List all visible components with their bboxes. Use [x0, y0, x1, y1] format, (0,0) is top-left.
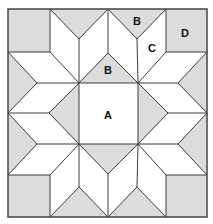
label-a: A [104, 109, 112, 121]
edge-triangle-bottom [50, 187, 108, 217]
corner-square-top-left [8, 9, 50, 52]
label-b-center: B [104, 64, 112, 76]
quilt-block-diagram: A B B C D [0, 0, 213, 224]
corner-square-bottom-left [8, 175, 50, 217]
label-d: D [181, 27, 189, 39]
inner-triangle-left [49, 83, 79, 144]
edge-triangle-bottom-2 [108, 187, 166, 217]
label-c: C [148, 42, 156, 54]
edge-triangle-top [50, 9, 108, 39]
edge-triangle-right [178, 52, 207, 113]
edge-triangle-left-2 [8, 113, 37, 175]
inner-triangle-right [138, 83, 168, 144]
edge-triangle-right-2 [178, 113, 207, 175]
inner-triangle-bottom [79, 144, 138, 174]
edge-triangle-left [8, 52, 37, 113]
label-b-top: B [133, 15, 141, 27]
corner-square-bottom-right [166, 175, 207, 217]
